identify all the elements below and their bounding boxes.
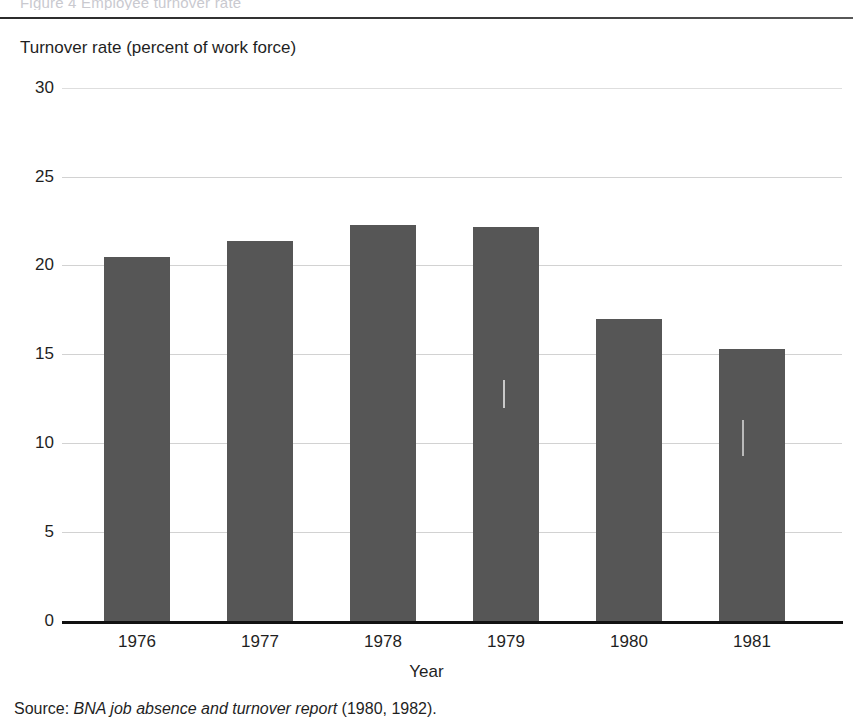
gridline-25 — [62, 177, 842, 178]
bar-1976 — [104, 257, 170, 621]
y-tick-label-30: 30 — [10, 78, 54, 98]
source-publication-title: BNA job absence and turnover report — [74, 700, 338, 717]
bar-chart-plot-area: 30 25 20 15 10 5 0 1976 1977 1978 1979 1… — [0, 0, 853, 640]
bar-1979 — [473, 227, 539, 621]
y-tick-label-5: 5 — [10, 522, 54, 542]
source-prefix: Source: — [14, 700, 74, 717]
bar-1981 — [719, 349, 785, 621]
bar-1980 — [596, 319, 662, 621]
y-tick-label-20: 20 — [10, 255, 54, 275]
y-tick-label-10: 10 — [10, 433, 54, 453]
source-note: Source: BNA job absence and turnover rep… — [14, 700, 437, 718]
y-tick-label-15: 15 — [10, 344, 54, 364]
x-tick-label-1979: 1979 — [451, 632, 561, 652]
gridline-30 — [62, 88, 842, 89]
x-tick-label-1977: 1977 — [205, 632, 315, 652]
x-axis-title: Year — [0, 662, 853, 682]
x-tick-label-1980: 1980 — [574, 632, 684, 652]
bar-1978 — [350, 225, 416, 621]
x-tick-label-1978: 1978 — [328, 632, 438, 652]
gridline-20 — [62, 265, 842, 266]
x-tick-label-1976: 1976 — [82, 632, 192, 652]
x-tick-label-1981: 1981 — [697, 632, 807, 652]
x-axis-baseline — [62, 621, 843, 624]
y-tick-label-0: 0 — [10, 611, 54, 631]
bar-1977 — [227, 241, 293, 621]
source-suffix: (1980, 1982). — [337, 700, 437, 717]
y-tick-label-25: 25 — [10, 167, 54, 187]
